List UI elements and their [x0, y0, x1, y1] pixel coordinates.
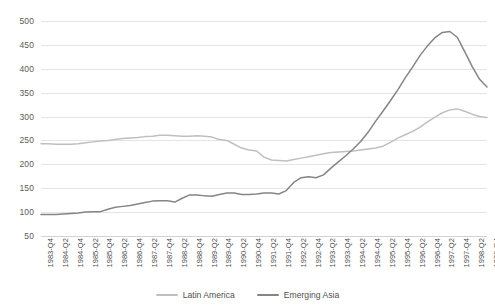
legend-item-latin-america[interactable]: Latin America — [156, 290, 235, 300]
y-tick-300: 300 — [20, 112, 34, 122]
series-line-emerging-asia — [41, 32, 487, 215]
series-lines — [41, 21, 487, 236]
y-tick-400: 400 — [20, 64, 34, 74]
y-tick-450: 450 — [20, 40, 34, 50]
chart-legend: Latin AmericaEmerging Asia — [0, 286, 495, 304]
legend-label: Emerging Asia — [284, 290, 339, 300]
y-axis-tick-labels: 50045040035030025020015010050 — [0, 21, 41, 236]
series-line-latin-america — [41, 109, 487, 161]
y-tick-200: 200 — [20, 159, 34, 169]
y-tick-250: 250 — [20, 135, 34, 145]
legend-swatch-icon — [257, 294, 279, 296]
plot-area — [41, 21, 487, 236]
legend-label: Latin America — [183, 290, 235, 300]
y-tick-500: 500 — [20, 16, 34, 26]
legend-swatch-icon — [156, 294, 178, 296]
chart-figure: 50045040035030025020015010050 1983-Q4198… — [0, 0, 495, 307]
y-tick-150: 150 — [20, 183, 34, 193]
gridline-50 — [41, 236, 487, 237]
y-tick-100: 100 — [20, 207, 34, 217]
y-tick-50: 50 — [24, 231, 34, 241]
x-axis-tick-labels: 1983-Q41984-Q21984-Q41985-Q21985-Q41986-… — [41, 238, 487, 284]
legend-item-emerging-asia[interactable]: Emerging Asia — [257, 290, 339, 300]
y-tick-350: 350 — [20, 88, 34, 98]
